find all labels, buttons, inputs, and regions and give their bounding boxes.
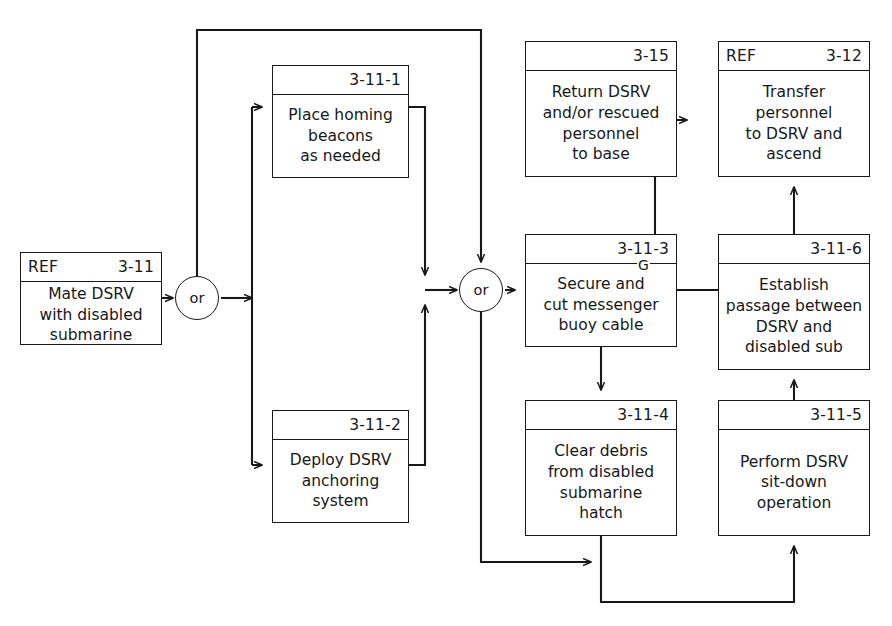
function-box-3-11-4[interactable]: 3-11-4 Clear debris from disabled submar… [525, 400, 677, 536]
function-box-3-11-2[interactable]: 3-11-2 Deploy DSRV anchoring system [272, 410, 409, 523]
connector-label-g: G [637, 258, 650, 272]
function-box-ref-3-11[interactable]: REF 3-11 Mate DSRV with disabled submari… [20, 252, 162, 345]
edge-3111-to-rightbus [409, 107, 425, 275]
function-description: Mate DSRV with disabled submarine [21, 282, 161, 348]
function-number: 3-11 [118, 258, 154, 276]
function-box-header: 3-11-4 [526, 401, 676, 430]
function-box-header: 3-11-3 [526, 235, 676, 264]
flow-diagram-canvas: REF 3-11 Mate DSRV with disabled submari… [0, 0, 892, 626]
function-number: 3-11-3 [617, 240, 669, 258]
function-number: 3-11-4 [617, 406, 669, 424]
function-number: 3-12 [826, 47, 862, 65]
function-box-3-11-5[interactable]: 3-11-5 Perform DSRV sit-down operation [718, 400, 870, 536]
function-box-header: 3-11-6 [719, 235, 869, 264]
function-ref-tag: REF [726, 47, 756, 65]
function-number: 3-11-6 [810, 240, 862, 258]
function-box-header: REF 3-12 [719, 42, 869, 71]
or-gate-label: or [474, 282, 489, 298]
function-box-header: 3-15 [526, 42, 676, 71]
function-box-header: 3-11-1 [273, 66, 408, 95]
function-box-3-11-6[interactable]: 3-11-6 Establish passage between DSRV an… [718, 234, 870, 370]
function-description: Return DSRV and/or rescued personnel to … [526, 71, 676, 176]
function-number: 3-11-1 [349, 71, 401, 89]
or-gate-label: or [190, 290, 205, 306]
function-box-header: REF 3-11 [21, 253, 161, 282]
function-description: Secure and cut messenger buoy cable [526, 264, 676, 346]
function-box-3-15[interactable]: 3-15 Return DSRV and/or rescued personne… [525, 41, 677, 177]
function-ref-tag: REF [28, 258, 58, 276]
function-box-3-11-1[interactable]: 3-11-1 Place homing beacons as needed [272, 65, 409, 178]
function-number: 3-15 [633, 47, 669, 65]
or-gate-right[interactable]: or [459, 268, 503, 312]
or-gate-left[interactable]: or [175, 276, 219, 320]
function-box-3-11-3[interactable]: 3-11-3 Secure and cut messenger buoy cab… [525, 234, 677, 347]
edge-3114-to-3115 [601, 536, 794, 602]
function-box-ref-3-12[interactable]: REF 3-12 Transfer personnel to DSRV and … [718, 41, 870, 177]
edge-3112-to-rightbus [409, 305, 425, 465]
function-number: 3-11-2 [349, 416, 401, 434]
function-box-header: 3-11-5 [719, 401, 869, 430]
function-description: Clear debris from disabled submarine hat… [526, 430, 676, 535]
function-description: Perform DSRV sit-down operation [719, 430, 869, 535]
function-description: Deploy DSRV anchoring system [273, 440, 408, 522]
function-description: Transfer personnel to DSRV and ascend [719, 71, 869, 176]
function-description: Place homing beacons as needed [273, 95, 408, 177]
function-box-header: 3-11-2 [273, 411, 408, 440]
function-number: 3-11-5 [810, 406, 862, 424]
function-description: Establish passage between DSRV and disab… [719, 264, 869, 369]
